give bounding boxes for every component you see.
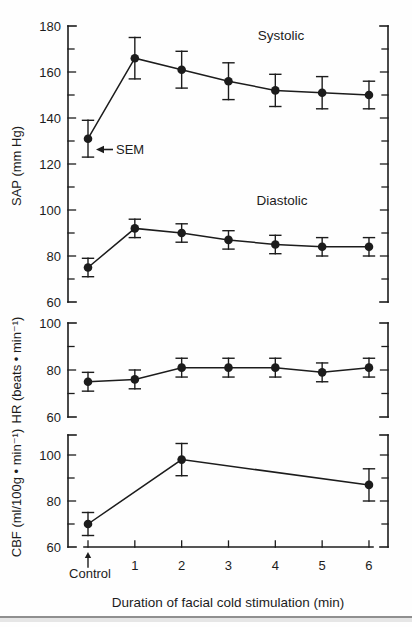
hr-panel: 6080100 — [39, 316, 388, 425]
data-point — [365, 91, 374, 100]
data-point — [131, 54, 140, 63]
sem-label: SEM — [116, 142, 144, 157]
chart-canvas: 608010012014016018060801006080100Control… — [0, 0, 412, 627]
hr-ytick-label: 80 — [47, 363, 61, 378]
x-tick-label: 3 — [225, 558, 232, 573]
cbf-ytick-label: 100 — [39, 448, 61, 463]
x-axis: Control123456 — [69, 541, 373, 581]
data-point — [365, 243, 374, 252]
data-point — [131, 375, 140, 384]
sap-ytick-label: 100 — [39, 203, 61, 218]
sap-ytick-label: 180 — [39, 19, 61, 34]
sap-ytick-label: 80 — [47, 249, 61, 264]
sem-annotation: SEM — [96, 142, 144, 157]
cbf-ytick-label: 60 — [47, 540, 61, 555]
control-tick-label: Control — [69, 566, 111, 581]
data-point — [177, 363, 186, 372]
data-point — [271, 86, 280, 95]
series-diastolic — [83, 219, 375, 277]
data-point — [365, 481, 374, 490]
sap-ytick-label: 160 — [39, 65, 61, 80]
sap-ytick-label: 140 — [39, 111, 61, 126]
data-point — [84, 377, 93, 386]
data-point — [318, 243, 327, 252]
hr-axis-title: HR (beats • min⁻¹) — [9, 317, 24, 424]
data-point — [224, 363, 233, 372]
page-edge-shadow — [0, 618, 412, 622]
x-tick-label: 5 — [319, 558, 326, 573]
x-tick-label: 6 — [365, 558, 372, 573]
data-point — [271, 363, 280, 372]
x-tick-label: 2 — [178, 558, 185, 573]
hr-ytick-label: 100 — [39, 316, 61, 331]
hr-ytick-label: 60 — [47, 410, 61, 425]
x-axis-title: Duration of facial cold stimulation (min… — [112, 595, 345, 610]
data-point — [84, 134, 93, 143]
series-line — [88, 460, 369, 524]
series-hr — [83, 358, 375, 391]
cbf-axis-title: CBF (ml/100g • min⁻¹) — [9, 429, 24, 557]
data-point — [318, 368, 327, 377]
control-arrow-icon — [85, 552, 91, 567]
diastolic-label: Diastolic — [256, 193, 307, 208]
sap-ytick-label: 120 — [39, 157, 61, 172]
data-point — [318, 88, 327, 97]
figure-facial-cold-stimulation: 608010012014016018060801006080100Control… — [0, 0, 412, 627]
cbf-panel: 6080100Control123456 — [39, 435, 388, 581]
arrow-head — [85, 552, 91, 558]
data-point — [84, 520, 93, 529]
sap-ytick-label: 60 — [47, 295, 61, 310]
data-point — [365, 363, 374, 372]
cbf-ytick-label: 80 — [47, 494, 61, 509]
data-point — [177, 229, 186, 238]
data-point — [271, 240, 280, 249]
series-cbf — [83, 444, 375, 536]
data-point — [224, 236, 233, 245]
data-point — [224, 77, 233, 86]
sap-panel: 6080100120140160180 — [39, 19, 388, 310]
data-point — [177, 455, 186, 464]
data-point — [177, 65, 186, 74]
sap-axis-title: SAP (mm Hg) — [9, 126, 24, 206]
x-tick-label: 4 — [272, 558, 279, 573]
systolic-label: Systolic — [258, 28, 305, 43]
left-arrow-icon — [96, 145, 113, 154]
data-point — [131, 224, 140, 233]
x-tick-label: 1 — [131, 558, 138, 573]
data-point — [84, 263, 93, 272]
series-systolic — [83, 38, 375, 158]
